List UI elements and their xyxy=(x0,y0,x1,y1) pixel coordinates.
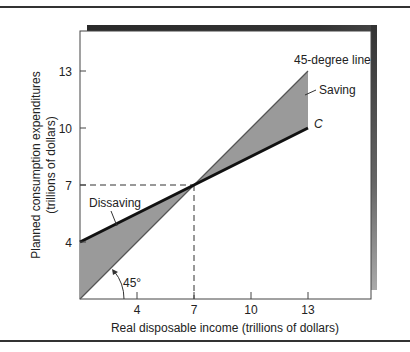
frame-shadow-right xyxy=(371,25,377,290)
y-axis-title-line1: Planned consumption expenditures xyxy=(29,71,43,258)
consumption-function-chart: 13 10 7 4 4 7 10 13 Real disposable inco… xyxy=(0,0,410,352)
x-tick-label: 13 xyxy=(301,303,315,317)
y-tick-label: 10 xyxy=(59,122,73,136)
label-45-degrees: 45° xyxy=(123,276,141,290)
y-axis-title-line2: (trillions of dollars) xyxy=(44,116,58,213)
x-tick-label: 4 xyxy=(134,303,141,317)
x-tick-label: 7 xyxy=(191,303,198,317)
x-tick-label: 10 xyxy=(244,303,258,317)
y-tick-label: 13 xyxy=(59,65,73,79)
y-tick-label: 4 xyxy=(65,236,72,250)
label-dissaving: Dissaving xyxy=(89,196,141,210)
label-45-degree-line: 45-degree line xyxy=(294,53,371,67)
label-c: C xyxy=(314,117,323,131)
x-axis-title: Real disposable income (trillions of dol… xyxy=(111,321,339,335)
y-tick-label: 7 xyxy=(65,179,72,193)
label-saving: Saving xyxy=(319,83,356,97)
frame-shadow-top xyxy=(87,25,377,31)
